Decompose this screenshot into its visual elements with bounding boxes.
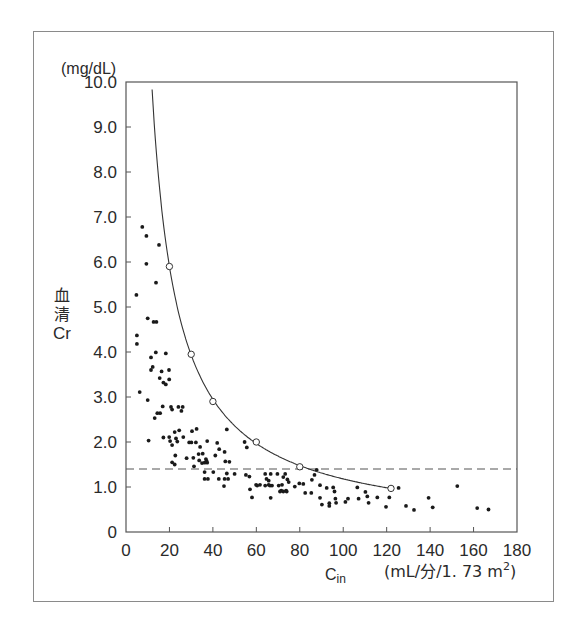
data-point (225, 428, 229, 432)
data-point (223, 450, 227, 454)
data-point (250, 496, 254, 500)
data-point (297, 482, 301, 486)
data-point (201, 452, 205, 456)
data-point (170, 443, 174, 447)
data-point (285, 490, 289, 494)
y-axis-title: 血 清 Cr (52, 286, 72, 343)
data-point (147, 439, 151, 443)
data-point (155, 320, 159, 324)
y-tick-label: 5.0 (93, 298, 117, 317)
y-tick-label: 7.0 (93, 208, 117, 227)
data-point (375, 496, 379, 500)
data-point (281, 475, 285, 479)
data-point (154, 281, 158, 285)
data-point (487, 508, 491, 512)
data-point (135, 293, 139, 297)
data-point (327, 504, 331, 508)
data-point (192, 464, 196, 468)
data-point (244, 473, 248, 477)
data-point (162, 436, 166, 440)
y-tick-label: 2.0 (93, 433, 117, 452)
scatter-chart: 02040608010012014016018001.02.03.04.05.0… (0, 0, 584, 625)
x-axis-title: Cin (325, 566, 346, 586)
data-point (287, 480, 291, 484)
data-point (205, 439, 209, 443)
data-point (346, 497, 350, 501)
data-point (170, 408, 174, 412)
data-point (245, 446, 249, 450)
data-point (177, 405, 181, 409)
data-point (313, 473, 317, 477)
data-point (203, 461, 207, 465)
data-point (226, 477, 230, 481)
data-point (198, 445, 202, 449)
data-point (173, 430, 177, 434)
data-point (331, 486, 335, 490)
x-unit-label: (mL/分/1. 73 m2) (384, 560, 516, 581)
data-point (140, 225, 144, 229)
curve-marker (388, 485, 394, 491)
x-tick-label: 100 (329, 541, 357, 560)
data-point (301, 482, 305, 486)
data-point (173, 454, 177, 458)
data-point (223, 477, 227, 481)
data-point (185, 456, 189, 460)
plot-axes (126, 82, 517, 532)
data-point (177, 428, 181, 432)
y-tick-label: 6.0 (93, 253, 117, 272)
y-tick-label: 8.0 (93, 163, 117, 182)
x-tick-label: 120 (372, 541, 400, 560)
data-point (412, 508, 416, 512)
data-point (203, 477, 207, 481)
data-point (160, 370, 164, 374)
data-point (387, 496, 391, 500)
x-tick-label: 0 (121, 541, 130, 560)
x-unit-superscript: 2 (503, 560, 510, 573)
data-point (203, 470, 207, 474)
data-point (164, 352, 168, 356)
relationship-curve (152, 90, 394, 492)
curve-line (152, 90, 391, 489)
data-point (164, 383, 168, 387)
curve-marker (253, 439, 259, 445)
data-point (333, 490, 337, 494)
data-point (146, 398, 150, 402)
data-point (475, 506, 479, 510)
data-point (243, 440, 247, 444)
data-point (153, 416, 157, 420)
data-point (158, 411, 162, 415)
data-point (135, 342, 139, 346)
y-tick-label: 9.0 (93, 118, 117, 137)
data-point (181, 405, 185, 409)
data-point (431, 505, 435, 509)
data-point (248, 475, 252, 479)
data-point (367, 501, 371, 505)
data-point (223, 460, 227, 464)
data-point (263, 484, 267, 488)
data-point (404, 504, 408, 508)
data-point (364, 490, 368, 494)
data-point (138, 390, 142, 394)
data-point (384, 505, 388, 509)
x-unit-text: (mL/分/1. 73 m (384, 562, 503, 581)
data-point (334, 501, 338, 505)
data-point (233, 472, 237, 476)
data-point (222, 484, 226, 488)
data-point (158, 376, 162, 380)
y-tick-label: 3.0 (93, 388, 117, 407)
y-tick-label: 0 (108, 523, 117, 542)
data-point (190, 429, 194, 433)
data-point (211, 470, 215, 474)
data-point (146, 316, 150, 320)
data-point (455, 484, 459, 488)
data-point (217, 477, 221, 481)
data-point (270, 484, 274, 488)
x-tick-label: 60 (247, 541, 266, 560)
data-point (168, 439, 172, 443)
curve-marker (188, 351, 194, 357)
data-point (145, 262, 149, 266)
data-point (197, 452, 201, 456)
data-point (334, 497, 338, 501)
data-point (154, 351, 158, 355)
x-tick-label: 180 (503, 541, 531, 560)
